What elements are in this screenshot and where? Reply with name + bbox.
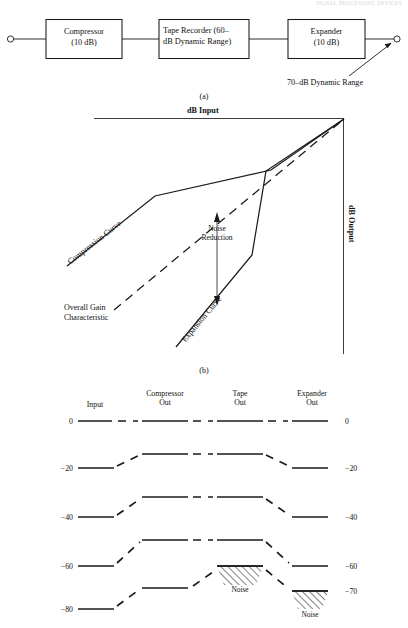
level-trace-40db-seg-ramp1 bbox=[117, 499, 140, 515]
level-trace-60db-seg-ramp3 bbox=[266, 542, 289, 563]
noise-label-tape-out: Noise bbox=[231, 585, 248, 594]
noise-region-expander-out-fill bbox=[292, 592, 328, 610]
column-header-input-line1: Input bbox=[87, 400, 103, 409]
right-scale-60: −60 bbox=[345, 562, 357, 571]
column-header-compressor-out-line1: Compressor bbox=[146, 389, 184, 398]
column-header-expander-out-line1: Expander bbox=[297, 389, 327, 398]
right-scale-20: −20 bbox=[345, 464, 357, 473]
right-scale-40: −40 bbox=[345, 513, 357, 522]
column-header-compressor-out: Compressor Out bbox=[146, 389, 184, 408]
right-scale-0: 0 bbox=[345, 417, 349, 426]
left-scale-20: −20 bbox=[61, 464, 73, 473]
right-scale-70: −70 bbox=[345, 587, 357, 596]
level-trace-80db-seg-ramp2 bbox=[193, 572, 213, 586]
level-trace-80db-seg-ramp3 bbox=[266, 570, 289, 589]
noise-label-expander-out: Noise bbox=[301, 610, 318, 619]
figure-c-graphics bbox=[0, 0, 408, 628]
level-trace-20db-seg-ramp3 bbox=[266, 455, 289, 466]
level-trace-20db-seg-ramp1 bbox=[117, 455, 140, 466]
left-scale-80: −80 bbox=[61, 605, 73, 614]
column-header-tape-out-line2: Out bbox=[232, 398, 247, 407]
noise-region-tape-out-fill bbox=[217, 567, 263, 586]
column-header-tape-out-line1: Tape bbox=[232, 389, 247, 398]
column-header-compressor-out-line2: Out bbox=[146, 398, 184, 407]
column-header-expander-out-line2: Out bbox=[297, 398, 327, 407]
column-header-expander-out: Expander Out bbox=[297, 389, 327, 408]
level-trace-40db-seg-ramp3 bbox=[266, 499, 289, 515]
left-scale-0: 0 bbox=[69, 417, 73, 426]
column-header-tape-out: Tape Out bbox=[232, 389, 247, 408]
figure-page: SIGNAL PROCESSING DEVICES bbox=[0, 0, 408, 628]
noise-region-tape-out bbox=[217, 566, 263, 585]
noise-region-expander-out bbox=[292, 591, 328, 609]
left-scale-40: −40 bbox=[61, 513, 73, 522]
left-scale-60: −60 bbox=[61, 562, 73, 571]
column-header-input: Input bbox=[87, 400, 103, 409]
level-trace-80db-seg-ramp1 bbox=[117, 589, 140, 606]
level-trace-60db-seg-ramp1 bbox=[117, 542, 140, 563]
